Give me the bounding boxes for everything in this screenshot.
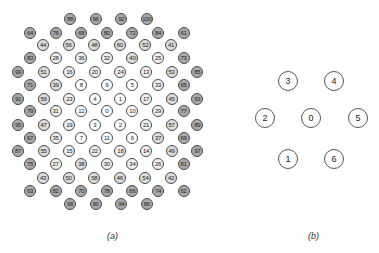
cluster-node-3: 3	[278, 71, 298, 91]
cluster-node-6: 6	[324, 149, 344, 169]
cluster-node-1: 1	[278, 149, 298, 169]
cluster-node-0: 0	[301, 108, 321, 128]
cluster-node-4: 4	[324, 71, 344, 91]
panel-b-caption: (b)	[308, 231, 319, 241]
cluster-node-2: 2	[255, 108, 275, 128]
panel-b-seven-node-cluster: 3420516	[0, 0, 379, 253]
cluster-node-5: 5	[348, 108, 368, 128]
